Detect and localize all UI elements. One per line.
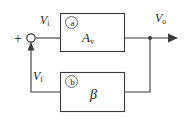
amplifier-gain-label: Av (82, 31, 94, 46)
amplifier-gain-symbol: A (82, 30, 90, 45)
amplifier-gain-subscript: v (90, 37, 94, 46)
output-tap-node (148, 36, 152, 40)
summing-junction-node (27, 34, 35, 42)
input-signal-label: Vi (40, 14, 49, 27)
feedback-signal-label: Vf (33, 70, 43, 83)
feedback-signal-subscript: f (40, 75, 42, 84)
wire-output-tap-to-feedback-block (125, 38, 151, 92)
summing-junction-plus-sign: + (14, 32, 22, 46)
amplifier-block-tag: a (65, 16, 78, 29)
feedback-arrowhead-icon (28, 42, 35, 51)
feedback-factor-label: β (90, 88, 97, 102)
feedback-block-tag-letter: b (66, 76, 79, 89)
block-diagram-figure: Vi Vo Vf + Av β a b (0, 0, 187, 125)
amplifier-block-tag-letter: a (66, 17, 79, 30)
feedback-block-tag: b (65, 75, 78, 88)
output-arrowhead-icon (168, 33, 178, 42)
input-signal-subscript: i (47, 19, 49, 28)
output-signal-subscript: o (162, 17, 166, 26)
output-signal-label: Vo (155, 12, 166, 25)
